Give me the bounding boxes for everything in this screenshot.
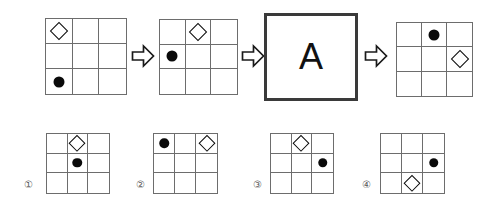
mark-r0c1	[293, 135, 309, 151]
option-4-grid[interactable]	[380, 133, 445, 194]
right-arrow-icon-1	[131, 43, 155, 69]
cell-r2c2	[88, 173, 109, 193]
cell-r0c2	[447, 23, 472, 47]
cell-r0c0	[160, 20, 186, 45]
cell-r1c1	[422, 47, 447, 71]
cell-r2c2	[196, 173, 217, 193]
cell-r0c0	[154, 134, 175, 154]
mark-r0c2	[198, 135, 214, 151]
mark-r1c0	[167, 51, 178, 62]
option-3-grid[interactable]	[270, 133, 334, 194]
cell-r1c0	[46, 44, 73, 69]
cell-r2c0	[154, 173, 175, 193]
cell-r0c0	[47, 134, 68, 154]
cell-r0c1	[73, 19, 100, 44]
cell-r0c2	[99, 19, 126, 44]
mark-r1c1	[73, 158, 83, 168]
cell-r1c0	[47, 154, 68, 174]
cell-r2c1	[402, 173, 423, 193]
mark-r2c0	[53, 76, 64, 87]
cell-r1c2	[211, 45, 237, 70]
cell-r2c1	[175, 173, 196, 193]
mark-r0c0	[50, 22, 68, 40]
figure-2-grid[interactable]	[159, 19, 238, 95]
cell-r2c0	[381, 173, 402, 193]
cell-r2c0	[47, 173, 68, 193]
mark-r1c2	[318, 158, 328, 168]
cell-r2c1	[422, 72, 447, 96]
option-2-grid[interactable]	[153, 133, 218, 194]
cell-r0c1	[422, 23, 447, 47]
mark-r0c1	[69, 135, 85, 151]
cell-r1c2	[312, 154, 333, 174]
cell-r1c0	[271, 154, 292, 174]
cell-r2c2	[211, 69, 237, 94]
cell-r0c1	[186, 20, 212, 45]
mark-r1c2	[429, 158, 439, 168]
cell-r1c2	[88, 154, 109, 174]
cell-r1c0	[381, 154, 402, 174]
cell-r1c1	[402, 154, 423, 174]
cell-r2c2	[423, 173, 444, 193]
figure-3-grid[interactable]	[396, 22, 473, 97]
cell-r2c1	[73, 69, 100, 94]
puzzle-canvas: A ① ②	[0, 0, 498, 206]
cell-r2c1	[292, 173, 313, 193]
right-arrow-icon-3	[364, 43, 388, 69]
letter-box-letter: A	[299, 39, 323, 75]
option-1-grid[interactable]	[46, 133, 110, 194]
cell-r0c0	[46, 19, 73, 44]
cell-r1c1	[68, 154, 89, 174]
letter-box[interactable]: A	[264, 13, 358, 101]
cell-r2c0	[271, 173, 292, 193]
cell-r0c0	[381, 134, 402, 154]
cell-r2c1	[186, 69, 212, 94]
figure-1-grid[interactable]	[45, 18, 127, 95]
cell-r1c2	[423, 154, 444, 174]
mark-r1c2	[450, 50, 468, 68]
cell-r0c2	[211, 20, 237, 45]
mark-r0c1	[429, 29, 440, 40]
cell-r2c2	[312, 173, 333, 193]
cell-r0c2	[423, 134, 444, 154]
option-1-label: ①	[21, 178, 35, 192]
cell-r0c1	[175, 134, 196, 154]
cell-r2c2	[447, 72, 472, 96]
cell-r2c0	[46, 69, 73, 94]
cell-r0c2	[312, 134, 333, 154]
cell-r1c0	[154, 154, 175, 174]
cell-r2c2	[99, 69, 126, 94]
mark-r0c0	[159, 139, 169, 149]
cell-r1c2	[99, 44, 126, 69]
cell-r2c1	[68, 173, 89, 193]
cell-r0c1	[402, 134, 423, 154]
option-3-label: ③	[250, 178, 264, 192]
cell-r1c1	[186, 45, 212, 70]
mark-r0c1	[189, 23, 207, 41]
cell-r0c2	[88, 134, 109, 154]
option-2-label: ②	[133, 178, 147, 192]
cell-r1c2	[447, 47, 472, 71]
cell-r1c1	[175, 154, 196, 174]
cell-r1c1	[292, 154, 313, 174]
cell-r1c1	[73, 44, 100, 69]
cell-r1c0	[397, 47, 422, 71]
cell-r2c0	[160, 69, 186, 94]
cell-r1c2	[196, 154, 217, 174]
mark-r2c1	[404, 175, 420, 191]
cell-r0c1	[68, 134, 89, 154]
option-4-label: ④	[359, 178, 373, 192]
right-arrow-icon-2	[241, 43, 265, 69]
cell-r2c0	[397, 72, 422, 96]
cell-r0c0	[271, 134, 292, 154]
cell-r0c1	[292, 134, 313, 154]
cell-r1c0	[160, 45, 186, 70]
cell-r0c0	[397, 23, 422, 47]
cell-r0c2	[196, 134, 217, 154]
